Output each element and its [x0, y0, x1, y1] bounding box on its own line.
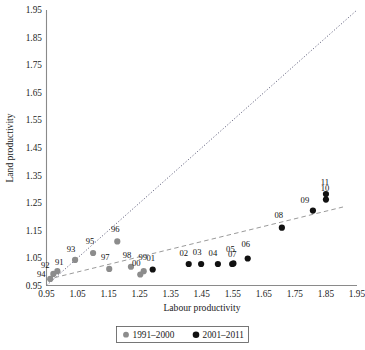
y-tick-label: 1.45 [26, 143, 43, 153]
data-point-11[interactable] [323, 191, 329, 197]
data-point-label-93: 93 [67, 244, 76, 254]
x-axis-title: Labour productivity [164, 302, 241, 313]
x-tick-label: 1.75 [287, 289, 304, 299]
y-tick-label: 1.85 [26, 33, 43, 43]
data-point-04[interactable] [215, 261, 221, 267]
legend-label-1: 2001–2011 [203, 330, 245, 340]
data-point-label-04: 04 [209, 248, 218, 258]
legend-label-0: 1991–2000 [133, 330, 175, 340]
y-tick-labels: 0.951.051.151.251.351.451.551.651.751.85… [26, 5, 43, 291]
data-point-label-03: 03 [193, 247, 202, 257]
data-point-06[interactable] [245, 255, 251, 261]
y-tick-label: 1.55 [26, 115, 43, 125]
data-point-label-01: 01 [146, 253, 155, 263]
data-point-label-94: 94 [37, 269, 46, 279]
data-point-00[interactable] [137, 271, 143, 277]
data-point-97[interactable] [106, 266, 112, 272]
scatter-chart-figure: 0.951.051.151.251.351.451.551.651.751.85… [0, 0, 365, 350]
data-point-label-06: 06 [241, 239, 250, 249]
data-point-07[interactable] [229, 261, 235, 267]
y-tick-label: 1.65 [26, 88, 43, 98]
data-point-label-91: 91 [55, 257, 64, 267]
y-axis-title: Land productivity [4, 113, 15, 182]
data-point-08[interactable] [279, 225, 285, 231]
data-point-label-09: 09 [301, 195, 310, 205]
data-point-01[interactable] [150, 266, 156, 272]
y-tick-label: 1.25 [26, 198, 43, 208]
legend-marker-0 [123, 332, 129, 338]
x-tick-label: 1.05 [69, 289, 86, 299]
data-point-label-95: 95 [86, 236, 95, 246]
x-tick-label: 0.95 [38, 289, 55, 299]
y-tick-label: 1.05 [26, 253, 43, 263]
chart-legend: 1991–20002001–2011 [117, 327, 249, 343]
y-tick-label: 1.75 [26, 60, 43, 70]
plot-svg: 0.951.051.151.251.351.451.551.651.751.85… [0, 0, 365, 350]
y-tick-label: 1.15 [26, 226, 43, 236]
x-tick-label: 1.65 [256, 289, 273, 299]
x-tick-labels: 0.951.051.151.251.351.451.551.651.751.85… [38, 289, 365, 299]
data-point-label-97: 97 [101, 252, 110, 262]
y-tick-label: 1.35 [26, 171, 43, 181]
data-point-label-00: 00 [132, 258, 141, 268]
data-point-96[interactable] [114, 238, 120, 244]
data-point-03[interactable] [198, 261, 204, 267]
y-tick-label: 1.95 [26, 5, 43, 15]
x-tick-label: 1.15 [100, 289, 117, 299]
series-black: 0102030405060708091011 [146, 177, 329, 273]
data-series-group: 9192939495969798990001020304050607080910… [37, 177, 329, 282]
data-point-95[interactable] [90, 250, 96, 256]
data-point-02[interactable] [186, 261, 192, 267]
data-point-09[interactable] [310, 207, 316, 213]
x-tick-label: 1.55 [225, 289, 242, 299]
x-tick-label: 1.35 [163, 289, 180, 299]
data-point-94[interactable] [47, 276, 53, 282]
data-point-label-96: 96 [111, 224, 120, 234]
series-gray: 91929394959697989900 [37, 224, 147, 282]
x-tick-label: 1.25 [132, 289, 149, 299]
data-point-label-08: 08 [275, 210, 284, 220]
data-point-10[interactable] [323, 196, 329, 202]
data-point-label-98: 98 [123, 250, 132, 260]
legend-marker-1 [193, 331, 200, 338]
x-tick-label: 1.95 [349, 289, 365, 299]
data-point-label-07: 07 [228, 249, 237, 259]
x-tick-label: 1.45 [194, 289, 211, 299]
data-point-label-02: 02 [179, 248, 188, 258]
data-point-label-11: 11 [321, 177, 329, 187]
x-tick-label: 1.85 [318, 289, 335, 299]
data-point-93[interactable] [72, 257, 78, 263]
